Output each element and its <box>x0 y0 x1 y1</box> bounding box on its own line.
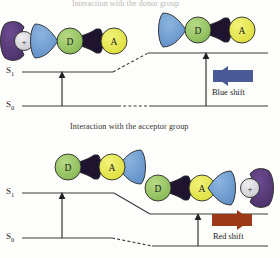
level-label-s1-top: S1 <box>6 65 14 77</box>
level-label-s0-top: S0 <box>6 99 14 111</box>
blue-shift-arrow-icon <box>213 66 253 86</box>
acceptor-label: A <box>109 163 116 173</box>
receptor-crescent-icon <box>208 171 236 205</box>
red-shift-label: Red shift <box>213 232 243 241</box>
level-label-s0-bottom: S0 <box>6 231 14 243</box>
blue-shift-label: Blue shift <box>212 88 245 97</box>
level-label-s1-bottom: S1 <box>6 186 14 198</box>
donor-label: D <box>65 163 72 173</box>
transition-arrow-right <box>203 52 210 106</box>
top-panel-graphics: + D A D A <box>0 0 280 118</box>
acceptor-label: A <box>239 26 246 36</box>
receptor-crescent-icon <box>31 24 59 58</box>
molecule-bottom-left: D A <box>55 150 146 184</box>
transition-arrow-left <box>59 192 66 238</box>
receptor-crescent-icon <box>159 13 187 47</box>
level-s1-connector <box>113 53 148 72</box>
panel-acceptor-interaction: D A D A + <box>0 140 280 258</box>
donor-label: D <box>67 37 74 47</box>
cation-plus-label: + <box>21 37 26 47</box>
molecule-top-right: D A <box>159 13 256 47</box>
cation-plus-label: + <box>247 184 252 194</box>
donor-label: D <box>195 26 202 36</box>
figure-canvas: Interaction with the donor group <box>0 0 280 258</box>
acceptor-label: A <box>111 37 118 47</box>
donor-label: D <box>155 184 162 194</box>
transition-arrow-right <box>195 213 202 246</box>
middle-caption: Interaction with the acceptor group <box>70 122 189 131</box>
molecule-top-left: + D A <box>1 22 128 61</box>
level-s0-connector <box>112 238 152 246</box>
level-s1-connector <box>114 193 150 214</box>
transition-arrow-left <box>59 71 66 106</box>
molecule-bottom-right: D A + <box>145 169 274 208</box>
red-shift-arrow-icon <box>212 210 252 230</box>
panel-donor-interaction: + D A D A <box>0 0 280 118</box>
acceptor-label: A <box>199 184 206 194</box>
